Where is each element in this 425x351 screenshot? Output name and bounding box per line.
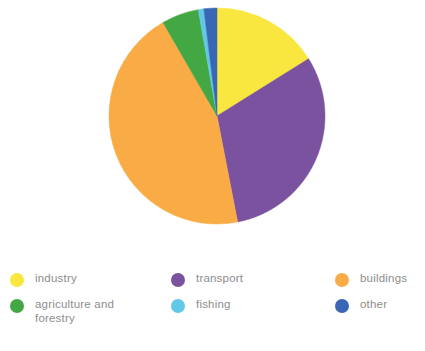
legend-swatch-fishing-icon [171,299,185,313]
legend-item-fishing[interactable]: fishing [168,298,335,325]
legend-swatch-other-icon [335,299,349,313]
legend-item-buildings[interactable]: buildings [335,272,425,287]
legend-swatch-transport-icon [171,273,185,287]
legend-row-2: agriculture and forestry fishing other [0,298,425,325]
chart-legend: industry transport buildings agriculture… [0,272,425,351]
legend-label-transport: transport [196,272,243,286]
pie-slice-group [109,8,325,224]
legend-item-transport[interactable]: transport [168,272,335,287]
pie-chart-svg [0,0,425,240]
pie-chart-figure: industry transport buildings agriculture… [0,0,425,351]
legend-label-agriculture-and-forestry: agriculture and forestry [35,298,114,325]
legend-swatch-agriculture-and-forestry-icon [10,299,24,313]
legend-item-industry[interactable]: industry [0,272,168,287]
legend-row-1: industry transport buildings [0,272,425,287]
legend-item-other[interactable]: other [335,298,425,325]
legend-label-fishing: fishing [196,298,231,312]
legend-swatch-buildings-icon [335,273,349,287]
legend-label-other: other [360,298,387,312]
legend-label-buildings: buildings [360,272,407,286]
legend-swatch-industry-icon [10,273,24,287]
legend-item-agriculture-and-forestry[interactable]: agriculture and forestry [0,298,168,325]
legend-label-industry: industry [35,272,77,286]
pie-chart-plot-area [0,0,425,240]
